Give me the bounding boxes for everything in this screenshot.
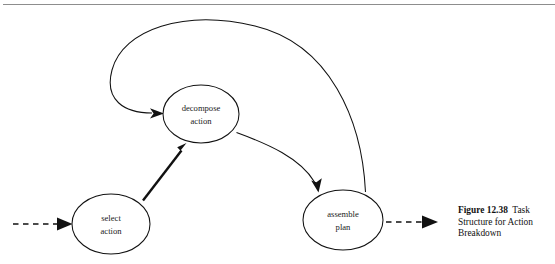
node-decompose-action-label-line2: action [191,116,213,126]
node-assemble-plan-label-line1: assemble [327,209,359,219]
node-assemble-plan-ellipse [303,190,383,250]
node-assemble-plan-label-line2: plan [336,222,351,232]
node-select-action-ellipse [72,194,150,254]
node-assemble-plan[interactable]: assemble plan [303,190,383,250]
node-decompose-action-ellipse [163,85,239,143]
node-decompose-action[interactable]: decompose action [163,85,239,143]
figure-page: select action decompose action assemble … [0,0,555,264]
node-select-action-label-line1: select [101,213,121,223]
arrowhead-select-to-decompose [176,143,187,156]
arrowhead-exit [422,216,438,229]
arrowhead-entry [57,218,73,231]
node-select-action-label-line2: action [101,226,123,236]
figure-caption-number: Figure 12.38 [458,205,508,215]
edge-decompose-to-assemble [237,133,315,183]
node-decompose-action-label-line1: decompose [182,103,221,113]
arrowhead-assemble-to-decompose [150,108,164,118]
edge-select-to-decompose [143,151,182,201]
figure-caption: Figure 12.38 Task Structure for Action B… [458,205,554,240]
node-select-action[interactable]: select action [72,194,150,254]
arrowhead-decompose-to-assemble [311,178,322,192]
